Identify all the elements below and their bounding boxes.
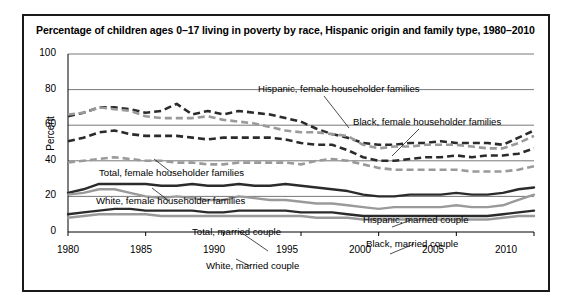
annotation-total-mc: Total, married couple bbox=[192, 226, 281, 237]
annotation-white-fh: White, female householder families bbox=[96, 195, 245, 206]
chart-frame: Percentage of children ages 0–17 living … bbox=[22, 14, 550, 292]
annotation-white-mc: White, married couple bbox=[206, 260, 299, 271]
plot-area: Percent 100 80 60 40 20 0 1980 1985 1990… bbox=[24, 16, 552, 294]
annotation-black-mc: Black, married couple bbox=[366, 238, 458, 249]
annotation-total-fh: Total, female householder families bbox=[99, 167, 244, 178]
chart-canvas bbox=[24, 16, 552, 294]
series-line-2 bbox=[68, 131, 534, 161]
annotation-hispanic-mc: Hispanic, married couple bbox=[363, 214, 469, 225]
annotation-black-fh: Black, female householder families bbox=[353, 116, 501, 127]
annotation-hispanic-fh: Hispanic, female householder families bbox=[258, 83, 420, 94]
